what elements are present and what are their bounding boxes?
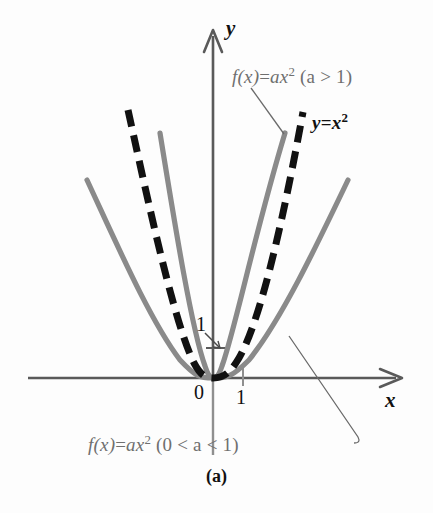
axes-group: [28, 30, 402, 455]
curve-y-equals-x-squared: [128, 110, 303, 378]
x-axis-label: x: [385, 388, 396, 413]
label-fx-text: f(x): [88, 434, 115, 455]
label-x-text: x: [332, 112, 342, 133]
leader-line-a-between-zero-one: [289, 336, 359, 443]
figure-caption: (a): [0, 466, 433, 487]
label-y-equals-x-squared: y=x2: [312, 110, 348, 134]
label-exponent: 2: [144, 432, 151, 447]
label-ax-text: ax: [270, 66, 288, 87]
origin-label: 0: [194, 381, 204, 404]
label-fx-text: f(x): [232, 66, 259, 87]
label-f-of-x-a-between-zero-one: f(x)=ax2 (0 < a < 1): [88, 432, 239, 456]
y-axis-tick-label-1: 1: [196, 313, 206, 336]
label-equals-sign: =: [321, 112, 332, 133]
label-condition: (a > 1): [300, 66, 352, 87]
y-axis-label: y: [226, 16, 236, 41]
label-y-text: y: [312, 112, 321, 133]
label-condition: (0 < a < 1): [156, 434, 239, 455]
label-equals-sign: =: [115, 434, 126, 455]
label-f-of-x-a-greater-than-one: f(x)=ax2 (a > 1): [232, 64, 352, 88]
label-equals-sign: =: [259, 66, 270, 87]
label-exponent: 2: [341, 110, 348, 125]
x-axis-tick-label-1: 1: [236, 386, 246, 409]
label-ax-text: ax: [126, 434, 144, 455]
leader-line-a-greater-than-one: [251, 88, 284, 134]
label-exponent: 2: [288, 64, 295, 79]
parabola-figure: f(x)=ax2 (a > 1) y=x2 f(x)=ax2 (0 < a < …: [0, 0, 433, 513]
curve-a-greater-than-one: [160, 133, 285, 378]
curves-group: [87, 110, 348, 378]
